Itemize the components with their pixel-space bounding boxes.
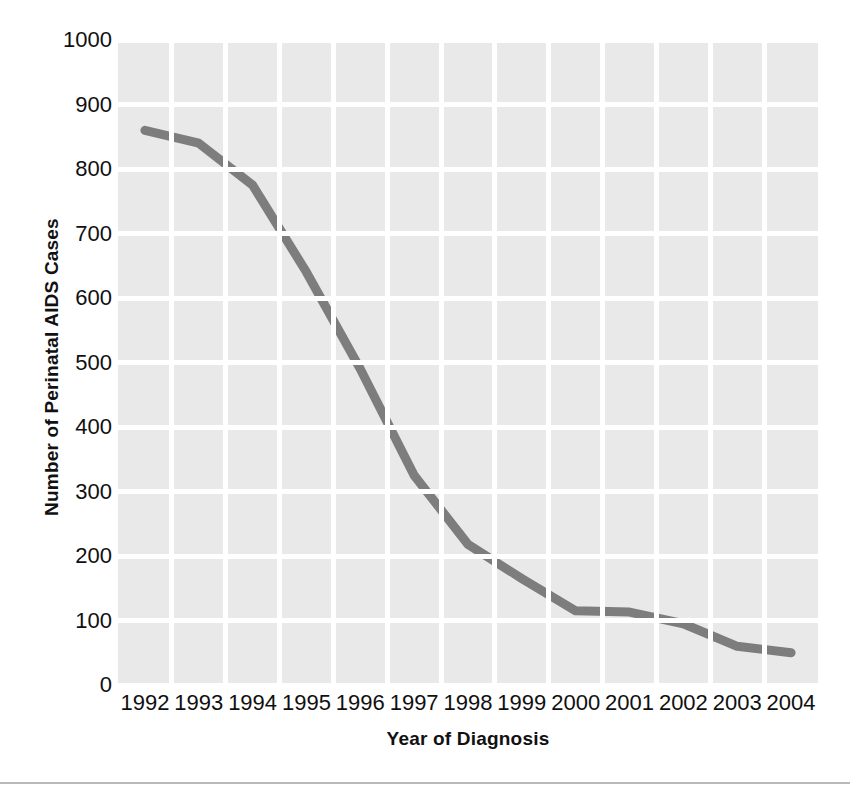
horizontal-gridline bbox=[118, 489, 818, 494]
y-axis-tick-label: 600 bbox=[38, 285, 112, 311]
plot-area bbox=[118, 40, 818, 685]
y-axis-tick-label: 400 bbox=[38, 414, 112, 440]
horizontal-gridline bbox=[118, 360, 818, 365]
horizontal-gridline bbox=[118, 618, 818, 623]
y-axis-tick-labels: 10009008007006005004003002001000 bbox=[38, 30, 112, 685]
y-axis-tick-label: 300 bbox=[38, 479, 112, 505]
horizontal-gridline bbox=[118, 40, 818, 43]
y-axis-tick-label: 900 bbox=[38, 92, 112, 118]
y-axis-tick-label: 800 bbox=[38, 156, 112, 182]
y-axis-tick-label: 700 bbox=[38, 221, 112, 247]
horizontal-gridline bbox=[118, 554, 818, 559]
horizontal-gridline bbox=[118, 102, 818, 107]
x-axis-tick-labels: 1992199319941995199619971998199920002001… bbox=[118, 690, 818, 724]
x-axis-tick-label: 2004 bbox=[756, 690, 826, 716]
horizontal-gridline bbox=[118, 231, 818, 236]
figure-bottom-rule bbox=[0, 782, 850, 784]
horizontal-gridline bbox=[118, 167, 818, 172]
y-axis-tick-label: 200 bbox=[38, 543, 112, 569]
chart-figure: Number of Perinatal AIDS Cases 100090080… bbox=[0, 0, 850, 791]
horizontal-gridline bbox=[118, 683, 818, 686]
line-series-perinatal-aids-cases bbox=[145, 130, 791, 652]
y-axis-tick-label: 500 bbox=[38, 350, 112, 376]
y-axis-tick-label: 0 bbox=[38, 672, 112, 698]
x-axis-title: Year of Diagnosis bbox=[118, 728, 818, 750]
y-axis-tick-label: 1000 bbox=[38, 27, 112, 53]
y-axis-tick-label: 100 bbox=[38, 608, 112, 634]
horizontal-gridline bbox=[118, 425, 818, 430]
horizontal-gridline bbox=[118, 296, 818, 301]
